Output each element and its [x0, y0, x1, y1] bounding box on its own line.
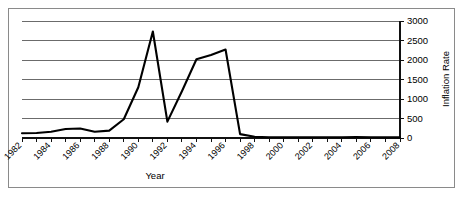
- y-axis-tick-label: 0: [407, 132, 412, 143]
- y-axis-tick-label: 500: [407, 113, 423, 124]
- x-axis-tick-label: 1994: [177, 140, 198, 161]
- x-axis-tick-label: 2000: [264, 140, 285, 161]
- y-axis-tick-labels-group: 050010001500200025003000: [407, 15, 428, 143]
- x-axis-tick-label: 1986: [60, 140, 81, 161]
- x-axis-tick-label: 1990: [118, 140, 139, 161]
- chart-screenshot: 050010001500200025003000 198219841986198…: [0, 0, 467, 204]
- y-axis-tick-label: 2500: [407, 35, 428, 46]
- x-axis-tick-label: 1982: [2, 140, 23, 161]
- x-axis-tick-label: 1992: [148, 140, 169, 161]
- chart-plot-area: 050010001500200025003000 198219841986198…: [0, 0, 467, 204]
- x-axis-tick-label: 2008: [380, 140, 401, 161]
- data-series-inflation-rate: [22, 32, 400, 138]
- y-axis-tick-label: 1500: [407, 74, 428, 85]
- x-axis-title: Year: [145, 170, 164, 181]
- y-axis-tick-label: 2000: [407, 54, 428, 65]
- x-axis-tick-label: 2006: [351, 140, 372, 161]
- x-axis-tick-label: 2004: [322, 140, 343, 161]
- x-axis-tick-label: 1998: [235, 140, 256, 161]
- line-chart: 050010001500200025003000 198219841986198…: [0, 0, 467, 204]
- x-axis-tick-labels-group: 1982198419861988199019921994199619982000…: [2, 140, 401, 161]
- gridlines-group: [22, 21, 400, 119]
- x-axis-tick-label: 2002: [293, 140, 314, 161]
- x-axis-tick-label: 1984: [31, 140, 52, 161]
- x-axis-tick-label: 1996: [206, 140, 227, 161]
- y-axis-tick-label: 3000: [407, 15, 428, 26]
- y-axis-tick-label: 1000: [407, 93, 428, 104]
- y-axis-title: Inflation Rate: [440, 51, 451, 107]
- x-axis-tick-label: 1988: [89, 140, 110, 161]
